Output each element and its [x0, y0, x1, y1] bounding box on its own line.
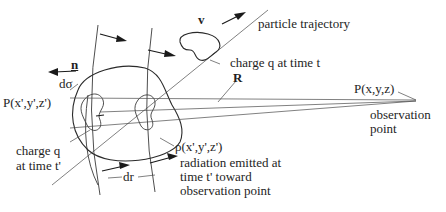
- arrowhead: [234, 12, 246, 20]
- trajectory-label: particle trajectory: [258, 17, 350, 31]
- charge-t-leader: [210, 60, 220, 64]
- wavefront-arc-outer-left: [91, 25, 100, 195]
- radiation-label-2: time t' toward: [180, 170, 252, 184]
- dr-dim-left: [108, 177, 122, 178]
- arrowhead: [48, 68, 58, 76]
- retarded-potential-diagram: v particle trajectory charge q at time t…: [0, 0, 446, 212]
- observer-label: P(x,y,z): [354, 82, 394, 96]
- shell-thickness-label: dr: [123, 170, 134, 184]
- observer-leader: [398, 92, 416, 100]
- velocity-label: v: [198, 13, 205, 27]
- charge-distribution-tprime: [73, 66, 182, 161]
- charge-t-label: charge q at time t: [230, 56, 320, 70]
- R-line-top: [70, 98, 416, 100]
- radiation-label-1: radiation emitted at: [180, 156, 281, 170]
- R-line-mid: [100, 101, 416, 112]
- charge-tprime-label-2: at time t': [16, 159, 61, 173]
- volume-element-right: [135, 95, 155, 130]
- charge-tprime-label-1: charge q: [16, 144, 60, 158]
- arrowhead: [167, 153, 178, 160]
- density-label: ρ(x',y',z'): [175, 140, 222, 154]
- normal-label: n: [71, 58, 78, 72]
- observation-label-1: observation: [370, 108, 431, 122]
- arrowhead: [164, 50, 176, 57]
- R-line-bottom: [70, 101, 416, 128]
- arrowhead: [119, 162, 130, 169]
- radiation-label-3: observation point: [180, 184, 271, 198]
- area-element-label: dσ: [59, 77, 73, 91]
- observation-label-2: point: [370, 122, 397, 136]
- R-vector-label: R: [233, 71, 242, 85]
- arrowhead: [116, 35, 127, 42]
- charge-distribution-t: [180, 32, 220, 60]
- inner-arrow: [96, 115, 104, 116]
- density-leader: [160, 138, 174, 146]
- source-point-label: P(x',y',z'): [3, 96, 51, 110]
